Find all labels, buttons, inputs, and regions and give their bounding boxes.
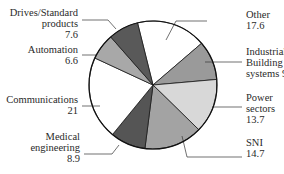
slice-label-drives-standard-products: Drives/Standardproducts7.6 [10, 7, 79, 40]
slice-name-label: sectors [246, 103, 275, 114]
slice-name-label: products [42, 18, 78, 29]
slice-name-label: Drives/Standard [10, 7, 79, 18]
pie-slices [89, 21, 217, 149]
slice-label-automation: Automation6.6 [28, 44, 79, 66]
slice-label-communications: Communications21 [6, 94, 78, 116]
slice-value-label: systems 9.9 [246, 68, 284, 79]
slice-name-label: Medical [46, 131, 80, 142]
slice-name-label: Building [246, 57, 284, 68]
slice-label-other: Other17.6 [246, 9, 270, 31]
pie-chart: Other17.6Industrial/Buildingsystems 9.9P… [0, 0, 284, 174]
slice-value-label: 17.6 [246, 20, 264, 31]
leader-line-medical-engineering [84, 145, 119, 154]
leader-line-sni [182, 136, 242, 157]
leader-line-drives-standard-products [82, 20, 116, 29]
slice-name-label: Communications [6, 94, 78, 105]
slice-label-power-sectors: Powersectors13.7 [246, 92, 275, 125]
slice-name-label: Power [246, 92, 273, 103]
slice-value-label: 6.6 [65, 55, 78, 66]
slice-label-sni: SNI14.7 [246, 137, 264, 159]
slice-name-label: Industrial/ [246, 46, 284, 57]
slice-name-label: Other [246, 9, 270, 20]
slice-value-label: 13.7 [246, 114, 264, 125]
slice-name-label: engineering [30, 142, 80, 153]
slice-name-label: SNI [246, 137, 263, 148]
slice-value-label: 8.9 [67, 153, 80, 164]
slice-name-label: Automation [28, 44, 79, 55]
slice-value-label: 21 [68, 105, 79, 116]
slice-label-medical-engineering: Medicalengineering8.9 [30, 131, 80, 164]
slice-label-industrial-building-systems: Industrial/Buildingsystems 9.9 [246, 46, 284, 79]
slice-value-label: 7.6 [65, 29, 78, 40]
slice-value-label: 14.7 [246, 148, 264, 159]
